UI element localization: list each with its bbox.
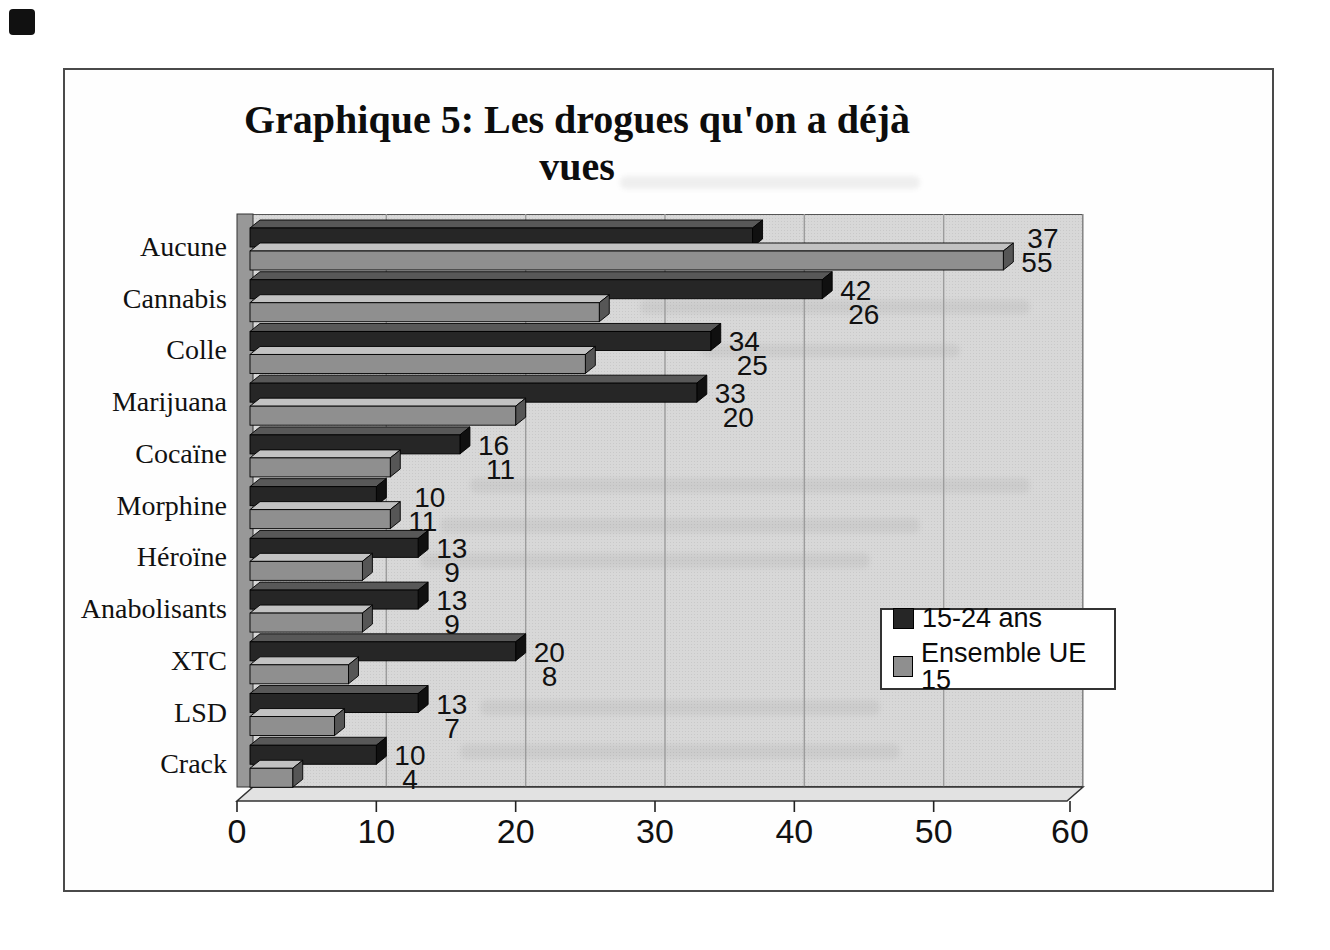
legend-label: Ensemble UE 15 bbox=[921, 640, 1114, 694]
value-label-h-ro-ne-gray: 9 bbox=[444, 557, 460, 588]
x-tick-label-40: 40 bbox=[775, 812, 813, 850]
bar-top-morphine bbox=[250, 502, 400, 510]
x-tick-label-30: 30 bbox=[636, 812, 674, 850]
floor-3d bbox=[237, 787, 1083, 801]
bar-top-anabolisants bbox=[250, 605, 372, 613]
legend-label: 15-24 ans bbox=[922, 605, 1042, 632]
category-label-marijuana: Marijuana bbox=[112, 386, 228, 417]
x-tick-label-20: 20 bbox=[497, 812, 535, 850]
x-tick-label-60: 60 bbox=[1051, 812, 1089, 850]
category-label-coca-ne: Cocaïne bbox=[135, 438, 227, 469]
category-label-crack: Crack bbox=[160, 748, 227, 779]
bar-ensemble-ue15-crack bbox=[250, 768, 293, 787]
bar-top-aucune bbox=[250, 243, 1013, 251]
legend-item-ensemble-ue-15: Ensemble UE 15 bbox=[893, 640, 1114, 694]
bar-top-xtc bbox=[250, 634, 526, 642]
legend-swatch-dark bbox=[893, 608, 914, 629]
bar-top-h-ro-ne bbox=[250, 553, 372, 561]
bar-ensemble-ue15-xtc bbox=[250, 665, 348, 684]
bar-ensemble-ue15-lsd bbox=[250, 717, 335, 736]
bar-ensemble-ue15-morphine bbox=[250, 510, 390, 529]
category-label-cannabis: Cannabis bbox=[123, 283, 227, 314]
bar-top-h-ro-ne bbox=[250, 530, 428, 538]
x-tick-label-0: 0 bbox=[228, 812, 247, 850]
category-label-colle: Colle bbox=[166, 334, 227, 365]
value-label-colle-gray: 25 bbox=[737, 350, 768, 381]
category-label-anabolisants: Anabolisants bbox=[81, 593, 227, 624]
bar-top-colle bbox=[250, 346, 595, 354]
legend: 15-24 ans Ensemble UE 15 bbox=[880, 608, 1116, 690]
bar-top-cannabis bbox=[250, 272, 832, 280]
legend-swatch-gray bbox=[893, 656, 913, 677]
value-label-marijuana-gray: 20 bbox=[723, 402, 754, 433]
category-label-h-ro-ne: Héroïne bbox=[137, 541, 227, 572]
bar-top-crack bbox=[250, 737, 386, 745]
bar-ensemble-ue15-anabolisants bbox=[250, 613, 362, 632]
bar-chart-canvas: 3755Aucune4226Cannabis3425Colle3320Marij… bbox=[0, 0, 1330, 950]
bar-top-marijuana bbox=[250, 398, 526, 406]
value-label-coca-ne-gray: 11 bbox=[486, 454, 515, 485]
bar-top-lsd bbox=[250, 709, 345, 717]
bar-top-cannabis bbox=[250, 295, 609, 303]
bar-top-lsd bbox=[250, 686, 428, 694]
bar-top-aucune bbox=[250, 220, 763, 228]
category-label-xtc: XTC bbox=[171, 645, 227, 676]
bar-ensemble-ue15-colle bbox=[250, 354, 585, 373]
value-label-xtc-gray: 8 bbox=[542, 661, 558, 692]
bar-ensemble-ue15-h-ro-ne bbox=[250, 561, 362, 580]
value-label-lsd-gray: 7 bbox=[444, 713, 460, 744]
category-label-lsd: LSD bbox=[174, 697, 227, 728]
x-tick-label-10: 10 bbox=[357, 812, 395, 850]
bar-ensemble-ue15-marijuana bbox=[250, 406, 516, 425]
bar-ensemble-ue15-cannabis bbox=[250, 303, 599, 322]
bar-ensemble-ue15-aucune bbox=[250, 251, 1003, 270]
category-label-aucune: Aucune bbox=[140, 231, 227, 262]
bar-top-coca-ne bbox=[250, 427, 470, 435]
bar-top-anabolisants bbox=[250, 582, 428, 590]
bar-ensemble-ue15-coca-ne bbox=[250, 458, 390, 477]
value-label-cannabis-gray: 26 bbox=[848, 299, 879, 330]
category-label-morphine: Morphine bbox=[117, 490, 227, 521]
bar-top-morphine bbox=[250, 479, 386, 487]
legend-item-15-24-ans: 15-24 ans bbox=[893, 605, 1114, 632]
value-label-aucune-gray: 55 bbox=[1021, 247, 1052, 278]
value-label-crack-gray: 4 bbox=[402, 764, 418, 795]
bar-top-colle bbox=[250, 323, 721, 331]
bar-top-coca-ne bbox=[250, 450, 400, 458]
bar-top-marijuana bbox=[250, 375, 707, 383]
bar-top-xtc bbox=[250, 657, 358, 665]
x-tick-label-50: 50 bbox=[915, 812, 953, 850]
